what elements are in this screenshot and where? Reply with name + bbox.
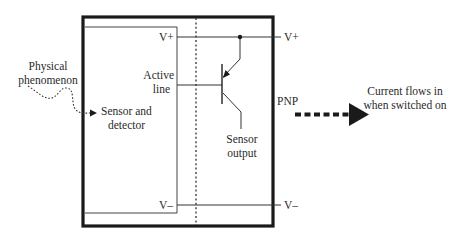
pnp-label: PNP bbox=[277, 94, 298, 108]
physical-phenomenon-label: Physical phenomenon bbox=[16, 59, 80, 87]
active-line-label: Active line bbox=[136, 68, 174, 96]
vplus-outer-label: V+ bbox=[284, 30, 299, 44]
junction-dot bbox=[238, 35, 242, 39]
current-flow-label: Current flows in when switched on bbox=[358, 84, 452, 112]
vminus-inner-label: V– bbox=[159, 198, 173, 212]
vplus-inner-label: V+ bbox=[159, 30, 174, 44]
vminus-outer-label: V– bbox=[284, 198, 298, 212]
squiggle-arrowhead-icon bbox=[90, 110, 97, 117]
transistor-collector bbox=[223, 93, 241, 129]
pnp-sensor-diagram bbox=[0, 0, 452, 241]
sensor-detector-label: Sensor and detector bbox=[101, 104, 152, 132]
sensor-output-label: Sensor output bbox=[222, 132, 262, 160]
